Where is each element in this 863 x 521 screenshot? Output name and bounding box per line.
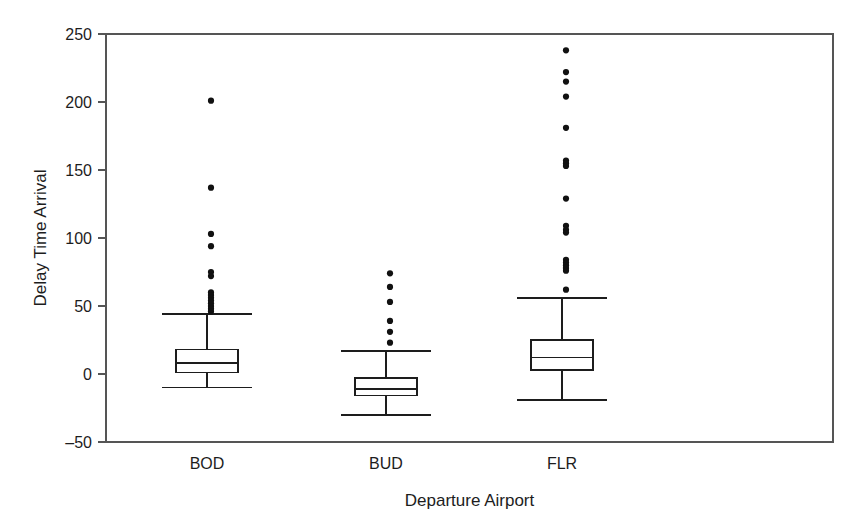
outlier-point	[563, 195, 569, 201]
y-axis-tick-label: 200	[65, 94, 92, 111]
outlier-point	[563, 69, 569, 75]
outlier-point	[208, 308, 214, 314]
outlier-point	[563, 93, 569, 99]
y-axis-tick-label: 150	[65, 162, 92, 179]
y-axis-title: Delay Time Arrival	[31, 170, 50, 307]
outlier-point	[387, 329, 393, 335]
outlier-point	[563, 47, 569, 53]
outlier-point	[387, 270, 393, 276]
plot-frame	[106, 34, 833, 442]
y-axis-tick-label: 0	[83, 366, 92, 383]
outlier-point	[208, 243, 214, 249]
x-axis-category-label-flr: FLR	[547, 455, 577, 472]
y-axis-tick-label: 250	[65, 26, 92, 43]
y-axis-tick-label: 50	[74, 298, 92, 315]
box-iqr	[531, 340, 593, 370]
outlier-point	[387, 318, 393, 324]
outlier-point	[208, 185, 214, 191]
outlier-point	[208, 231, 214, 237]
outlier-point	[563, 268, 569, 274]
outlier-point	[387, 284, 393, 290]
box-iqr	[176, 350, 238, 373]
outlier-point	[563, 163, 569, 169]
x-axis-category-label-bud: BUD	[369, 455, 403, 472]
outlier-point	[563, 229, 569, 235]
outlier-point	[563, 125, 569, 131]
outlier-point	[387, 340, 393, 346]
outlier-point	[208, 273, 214, 279]
boxplot-figure: –50050100150200250Delay Time ArrivalDepa…	[0, 0, 863, 521]
y-axis-tick-label: –50	[65, 434, 92, 451]
boxplot-canvas: –50050100150200250Delay Time ArrivalDepa…	[0, 0, 863, 521]
box-iqr	[355, 378, 417, 396]
outlier-point	[563, 79, 569, 85]
y-axis-tick-label: 100	[65, 230, 92, 247]
outlier-point	[208, 98, 214, 104]
outlier-point	[563, 287, 569, 293]
x-axis-title: Departure Airport	[405, 491, 535, 510]
outlier-point	[387, 299, 393, 305]
x-axis-category-label-bod: BOD	[190, 455, 225, 472]
